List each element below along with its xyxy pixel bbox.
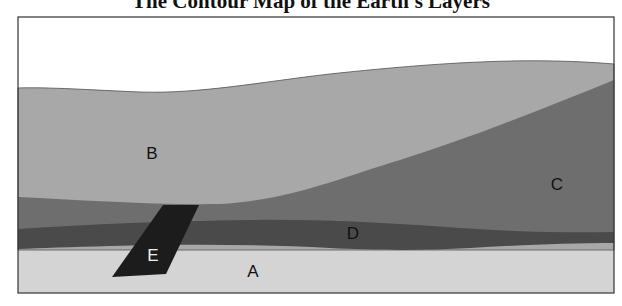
label-e: E (147, 246, 158, 265)
label-d: D (347, 224, 359, 243)
label-c: C (551, 175, 563, 194)
earth-layers-diagram: B C D E A (0, 0, 622, 306)
label-a: A (247, 262, 259, 281)
label-b: B (146, 144, 157, 163)
